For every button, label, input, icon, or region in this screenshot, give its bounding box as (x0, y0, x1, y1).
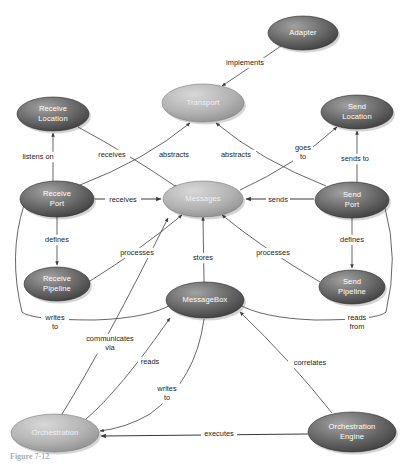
node-label: ReceivePipeline (43, 274, 71, 292)
edge-label-receiveport-transport-left: abstracts (159, 150, 189, 159)
edge-messagebox-stores-messages (203, 217, 204, 282)
node-messagebox[interactable]: MessageBox (166, 282, 246, 321)
edge-label-receivelocation-messages: receives (98, 150, 126, 159)
node-send-port[interactable]: SendPort (315, 182, 391, 221)
edge-label-sendport-messagebox: readsfrom (348, 313, 367, 331)
edge-label-sendport-sendlocation: sends to (341, 154, 369, 163)
edge-label-orchestration-messagebox-reads: reads (141, 357, 160, 366)
node-orchestration[interactable]: Orchestration (11, 414, 101, 455)
edge-label-receiveport-messages: receives (109, 195, 137, 204)
node-receive-pipeline[interactable]: ReceivePipeline (24, 267, 92, 304)
node-receive-location[interactable]: ReceiveLocation (17, 97, 91, 134)
edge-label-orchestrationengine-orchestration: executes (204, 429, 234, 438)
node-send-location[interactable]: SendLocation (321, 95, 395, 132)
edge-label-sendpipeline-messages: processes (256, 248, 290, 257)
edge-label-orchestrationengine-messagebox: correlates (294, 358, 327, 367)
edge-label-sendport-messages: sends (268, 195, 288, 204)
node-label: MessageBox (183, 295, 228, 304)
concept-map-canvas: AdapterTransportReceiveLocationSendLocat… (0, 0, 406, 468)
figure-caption: Figure 7-12 (10, 452, 49, 461)
edge-label-receiveport-receivepipeline: defines (45, 235, 69, 244)
node-send-pipeline[interactable]: SendPipeline (319, 270, 387, 307)
node-receive-port[interactable]: ReceivePort (20, 181, 96, 220)
edge-label-receiveport-receivelocation: listens on (22, 152, 53, 161)
node-label: Adapter (289, 28, 317, 37)
node-label: ReceiveLocation (38, 104, 68, 122)
edge-label-sendport-sendpipeline: defines (340, 235, 364, 244)
edge-label-adapter-transport: implements (226, 58, 264, 67)
edge-label-sendport-transport-right: abstracts (221, 150, 251, 159)
edge-label-receivepipeline-messages: processes (120, 248, 154, 257)
node-label: Orchestration (32, 428, 79, 437)
node-transport[interactable]: Transport (162, 84, 246, 125)
node-label: Messages (185, 194, 221, 203)
node-orchestration-engine[interactable]: OrchestrationEngine (308, 412, 398, 455)
node-messages[interactable]: Messages (163, 181, 245, 220)
node-label: Transport (186, 98, 220, 107)
edge-receiveport-writes-to-messagebox (15, 205, 172, 320)
node-label: SendPort (343, 190, 361, 208)
edge-label-messagebox-messages: stores (193, 253, 213, 262)
